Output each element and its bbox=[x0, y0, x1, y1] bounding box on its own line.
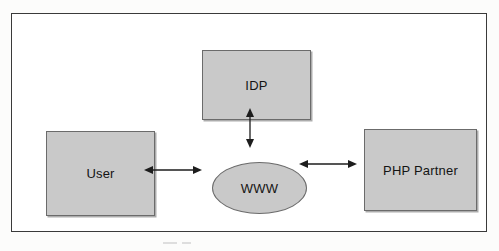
figure-frame: IDP User WWW PHP Partner bbox=[11, 13, 487, 232]
node-www-label: WWW bbox=[241, 181, 278, 196]
node-www[interactable]: WWW bbox=[212, 162, 307, 214]
node-user[interactable]: User bbox=[46, 131, 155, 216]
node-idp-label: IDP bbox=[245, 78, 267, 93]
node-user-label: User bbox=[86, 166, 114, 181]
connector-idp-www-arrow bbox=[242, 107, 258, 149]
scan-artifact bbox=[163, 242, 177, 244]
connector-user-www-arrow bbox=[143, 162, 203, 178]
node-php-partner-label: PHP Partner bbox=[383, 163, 458, 178]
diagram-page: IDP User WWW PHP Partner bbox=[0, 0, 499, 251]
scan-artifact bbox=[182, 242, 191, 244]
connector-www-php-partner-arrow bbox=[298, 156, 358, 172]
node-php-partner[interactable]: PHP Partner bbox=[364, 129, 477, 211]
